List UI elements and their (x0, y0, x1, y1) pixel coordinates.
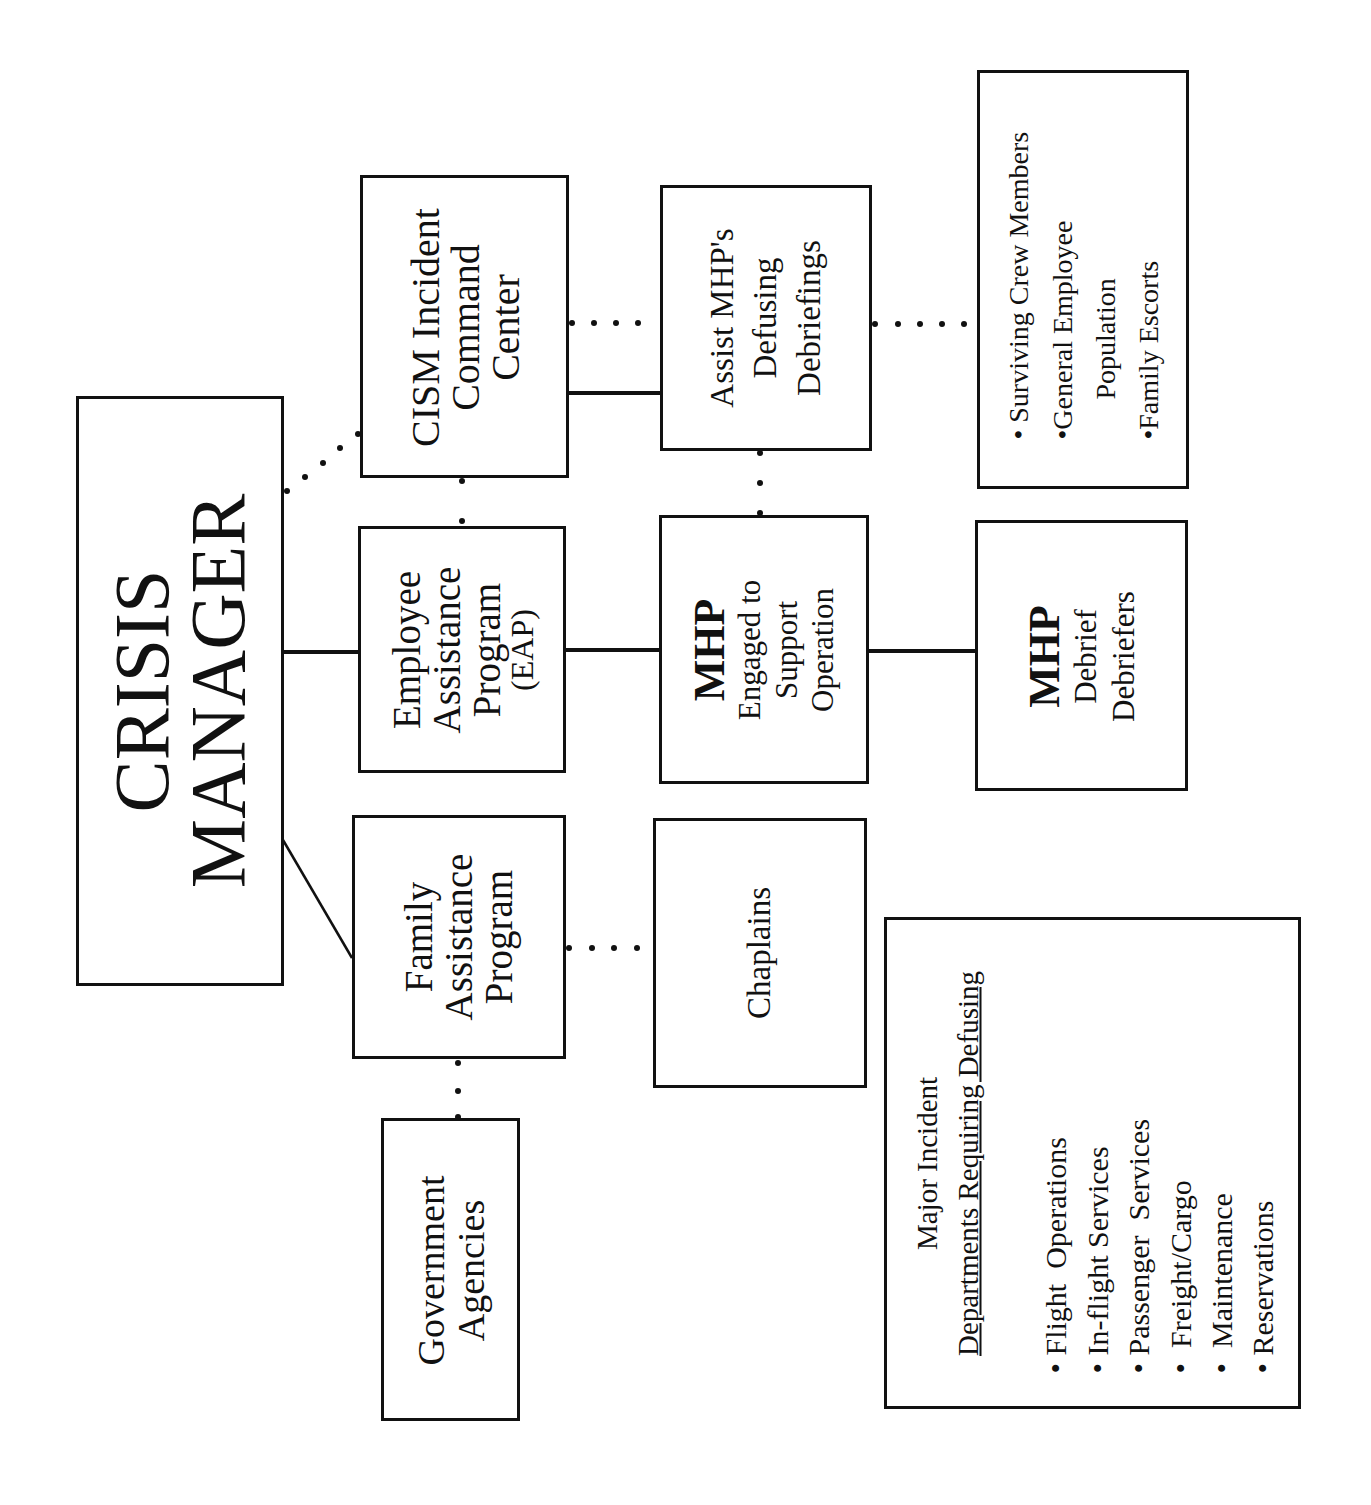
target-item-1: • Surviving Crew Members (997, 131, 1040, 439)
crisis-manager-box: CRISIS MANAGER (76, 396, 284, 986)
cism-line1: CISM Incident (405, 208, 445, 447)
eap-line1: Employee (387, 570, 427, 728)
gov-line2: Agencies (451, 1199, 491, 1340)
assist-mhps-box: Assist MHP's Defusing Debriefings (660, 185, 872, 451)
crisis-manager-line1: CRISIS (104, 570, 180, 813)
target-item-2: •General Employee (1040, 220, 1083, 439)
cism-command-center-box: CISM Incident Command Center (360, 175, 569, 478)
mhp-engaged-line1: Engaged to (732, 579, 769, 719)
assist-line3: Debriefings (788, 240, 832, 396)
cism-line3: Center (485, 274, 525, 381)
assist-line1: Assist MHP's (701, 228, 745, 407)
crisis-manager-line2: MANAGER (180, 494, 256, 888)
department-item-3: • Passenger Services (1117, 1119, 1158, 1374)
eap-line4: (EAP) (506, 609, 539, 691)
mhp-debrief-box: MHP Debrief Debriefers (975, 520, 1188, 791)
departments-heading: Major Incident (906, 1077, 947, 1250)
eap-line3: Program (466, 582, 506, 716)
mhp-engaged-title: MHP (688, 598, 732, 701)
mhp-debrief-title: MHP (1022, 605, 1066, 708)
department-item-1: • Flight Operations (1034, 1119, 1075, 1374)
gov-line1: Government (411, 1175, 451, 1365)
family-assistance-program-box: Family Assistance Program (352, 815, 566, 1059)
mhp-engaged-line3: Operation (805, 588, 842, 712)
major-incident-departments-box: Major Incident Departments Requiring Def… (884, 917, 1301, 1409)
fap-line1: Family (399, 882, 439, 993)
mhp-debrief-line2: Debriefers (1104, 591, 1142, 722)
cism-line2: Command (445, 244, 485, 411)
fap-line3: Program (479, 870, 519, 1004)
assist-line2: Defusing (744, 258, 788, 379)
target-item-4: •Family Escorts (1127, 260, 1170, 439)
department-item-6: • Reservations (1241, 1119, 1282, 1374)
chaplains-box: Chaplains (653, 818, 867, 1088)
departments-subheading: Departments Requiring Defusing (947, 971, 988, 1356)
department-item-4: • Freight/Cargo (1159, 1119, 1200, 1374)
mhp-engaged-box: MHP Engaged to Support Operation (659, 515, 869, 784)
mhp-debrief-line1: Debrief (1066, 609, 1104, 704)
departments-list: • Flight Operations • In-flight Services… (1034, 1119, 1282, 1410)
chaplains-label: Chaplains (743, 887, 777, 1019)
employee-assistance-program-box: Employee Assistance Program (EAP) (358, 526, 566, 773)
fap-line2: Assistance (439, 854, 479, 1021)
government-agencies-box: Government Agencies (381, 1118, 520, 1421)
eap-line2: Assistance (426, 566, 466, 733)
department-item-5: • Maintenance (1200, 1119, 1241, 1374)
department-item-2: • In-flight Services (1076, 1119, 1117, 1374)
target-item-3: Population (1084, 278, 1127, 439)
mhp-engaged-line2: Support (768, 600, 805, 698)
defusing-targets-box: • Surviving Crew Members •General Employ… (977, 70, 1189, 489)
